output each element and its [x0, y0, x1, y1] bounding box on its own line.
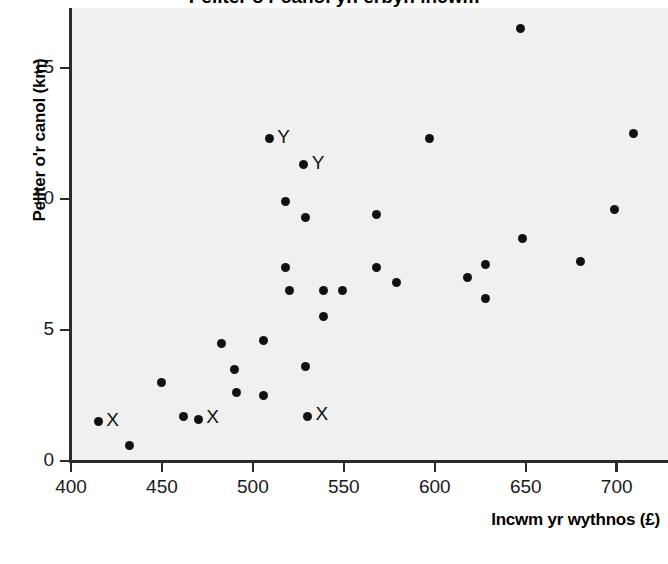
x-tick-label: 550	[314, 476, 374, 498]
data-point-annotation: X	[206, 406, 219, 428]
x-tick-mark	[70, 462, 73, 472]
x-tick-label: 500	[223, 476, 283, 498]
x-tick-mark	[161, 462, 164, 472]
x-tick-label: 650	[496, 476, 556, 498]
data-point-annotation: X	[106, 409, 119, 431]
y-tick-mark	[60, 329, 70, 332]
x-tick-mark	[434, 462, 437, 472]
data-point-annotation: Y	[277, 126, 290, 148]
x-tick-label: 700	[587, 476, 647, 498]
data-point	[230, 365, 239, 374]
data-point	[94, 417, 103, 426]
y-axis-line	[69, 8, 72, 463]
y-tick-mark	[60, 198, 70, 201]
data-point-annotation: Y	[312, 152, 325, 174]
data-point	[372, 263, 381, 272]
chart-title-clipped: Pellter o'r canol yn erbyn incwm	[0, 0, 668, 7]
y-tick-mark	[60, 67, 70, 70]
plot-area	[71, 8, 668, 461]
data-point	[425, 134, 434, 143]
y-tick-label: 5	[14, 318, 54, 340]
data-point	[194, 415, 203, 424]
data-point	[516, 24, 525, 33]
x-tick-mark	[615, 462, 618, 472]
scatter-plot-figure: Pellter o'r canol yn erbyn incwm 051015 …	[0, 0, 668, 564]
data-point-annotation: X	[315, 403, 328, 425]
data-point	[518, 234, 527, 243]
data-point	[303, 412, 312, 421]
data-point	[338, 286, 347, 295]
data-point	[629, 129, 638, 138]
x-tick-label: 600	[405, 476, 465, 498]
x-axis-line	[69, 460, 668, 463]
y-tick-label: 0	[14, 449, 54, 471]
chart-title-text: Pellter o'r canol yn erbyn incwm	[0, 0, 668, 7]
data-point	[301, 213, 310, 222]
data-point	[265, 134, 274, 143]
data-point	[125, 441, 134, 450]
x-tick-label: 400	[41, 476, 101, 498]
x-tick-mark	[525, 462, 528, 472]
x-axis-label: Incwm yr wythnos (£)	[330, 510, 660, 530]
y-tick-mark	[60, 460, 70, 463]
x-tick-mark	[252, 462, 255, 472]
y-axis-label: Pellter o'r canol (km)	[30, 0, 50, 290]
x-tick-mark	[343, 462, 346, 472]
data-point	[285, 286, 294, 295]
data-point	[281, 263, 290, 272]
x-tick-label: 450	[132, 476, 192, 498]
